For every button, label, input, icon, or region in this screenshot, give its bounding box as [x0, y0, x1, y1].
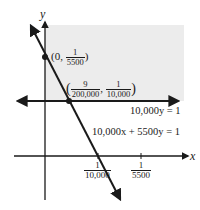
slanted-line-equation: 10,000x + 5500y = 1 [92, 127, 180, 138]
y-axis-label: y [40, 8, 45, 20]
point-y-intercept [42, 54, 48, 60]
horizontal-line-equation: 10,000y = 1 [130, 106, 181, 117]
point1-fraction: 1 5500 [66, 48, 85, 66]
point-intersection [66, 98, 72, 104]
point2-label: ( 9 200,000 , 1 10,000 ) [66, 80, 136, 98]
x-tick-label-2: 1 5500 [131, 161, 151, 180]
point2-y-fraction: 1 10,000 [106, 80, 131, 98]
point2-x-fraction: 9 200,000 [71, 80, 101, 98]
point1-label: (0, 1 5500 ) [51, 48, 88, 66]
x-axis-label: x [190, 150, 195, 162]
x-tick-label-1: 1 10,000 [84, 161, 111, 180]
